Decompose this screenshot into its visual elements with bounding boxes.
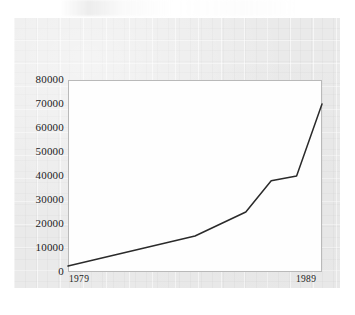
y-axis-tick-label: 10000 [6,241,64,253]
plot-svg [68,80,322,272]
y-axis-tick-label: 30000 [6,193,64,205]
y-axis-tick-label: 70000 [6,97,64,109]
y-axis-tick-label: 50000 [6,145,64,157]
y-axis-tick-label: 0 [6,265,64,277]
y-axis-tick-label: 60000 [6,121,64,133]
y-axis-tick-label: 80000 [6,73,64,85]
x-axis-tick-label-end: 1989 [296,274,316,284]
chart-figure: 0100002000030000400005000060000700008000… [0,0,355,315]
y-axis-tick-label: 40000 [6,169,64,181]
cropped-caption-remnant [60,0,300,16]
x-axis-tick-label-start: 1979 [69,274,89,284]
y-axis-tick-labels: 0100002000030000400005000060000700008000… [4,0,64,315]
y-axis-tick-label: 20000 [6,217,64,229]
data-line-series-1 [68,104,322,266]
